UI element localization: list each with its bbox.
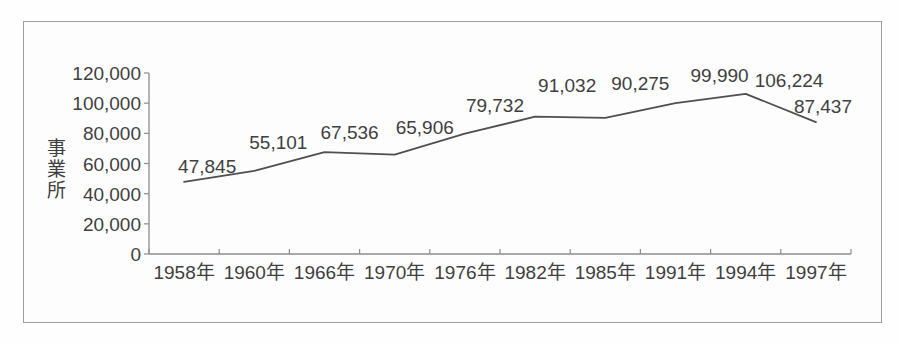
y-tick-label: 80,000 bbox=[83, 123, 141, 144]
x-tick-label: 1976年 bbox=[434, 262, 495, 283]
y-tick-label: 60,000 bbox=[83, 154, 141, 175]
x-tick-label: 1970年 bbox=[364, 262, 425, 283]
line-chart: 020,00040,00060,00080,000100,000120,0001… bbox=[24, 22, 881, 322]
y-tick-label: 40,000 bbox=[83, 184, 141, 205]
y-tick-label: 20,000 bbox=[83, 214, 141, 235]
y-axis-title: 事 bbox=[47, 138, 66, 159]
data-label: 106,224 bbox=[755, 70, 824, 91]
data-label: 91,032 bbox=[538, 75, 596, 96]
data-label: 90,275 bbox=[611, 73, 669, 94]
x-tick-label: 1958年 bbox=[153, 262, 214, 283]
x-tick-label: 1994年 bbox=[715, 262, 776, 283]
data-label: 79,732 bbox=[466, 95, 524, 116]
y-axis-title: 所 bbox=[47, 180, 66, 201]
data-label: 99,990 bbox=[691, 65, 749, 86]
x-tick-label: 1982年 bbox=[504, 262, 565, 283]
x-tick-label: 1991年 bbox=[645, 262, 706, 283]
data-label: 47,845 bbox=[178, 156, 236, 177]
y-tick-label: 0 bbox=[130, 244, 141, 265]
y-tick-label: 100,000 bbox=[72, 93, 141, 114]
data-label: 67,536 bbox=[321, 122, 379, 143]
y-axis-title: 業 bbox=[47, 159, 66, 180]
x-tick-label: 1985年 bbox=[575, 262, 636, 283]
y-tick-label: 120,000 bbox=[72, 63, 141, 84]
x-tick-label: 1960年 bbox=[224, 262, 285, 283]
chart-frame: 020,00040,00060,00080,000100,000120,0001… bbox=[23, 21, 882, 323]
x-tick-label: 1966年 bbox=[294, 262, 355, 283]
data-label: 55,101 bbox=[249, 132, 307, 153]
data-label: 65,906 bbox=[396, 117, 454, 138]
x-tick-label: 1997年 bbox=[785, 262, 846, 283]
data-label: 87,437 bbox=[794, 96, 852, 117]
